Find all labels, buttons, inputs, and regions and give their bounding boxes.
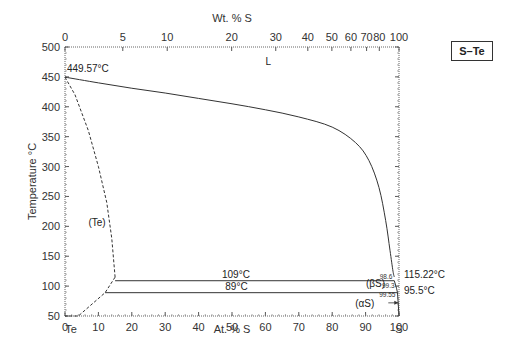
top-axis-title: Wt. % S bbox=[212, 12, 252, 24]
annotation-label: 109°C bbox=[222, 269, 250, 280]
top-x-tick-label: 100 bbox=[390, 31, 408, 43]
-te-solvus-line bbox=[65, 77, 115, 277]
x-axis-title: At. % S bbox=[214, 323, 251, 335]
annotation-label: 115.22°C bbox=[404, 269, 445, 280]
y-tick-label: 150 bbox=[42, 250, 60, 262]
phase-diagram: 5010015020025030035040045050001020304050… bbox=[0, 0, 515, 339]
annotation-label: 449.57°C bbox=[67, 63, 109, 74]
top-x-tick-label: 10 bbox=[161, 31, 173, 43]
x-tick-label: 90 bbox=[359, 321, 371, 333]
-te-lower-boundary-line bbox=[65, 277, 115, 316]
system-label: S–Te bbox=[451, 41, 493, 61]
x-tick-label: 40 bbox=[192, 321, 204, 333]
top-x-tick-label: 0 bbox=[62, 31, 68, 43]
top-x-tick-label: 30 bbox=[270, 31, 282, 43]
x-tick-label: 80 bbox=[326, 321, 338, 333]
right-element-label: S bbox=[395, 323, 402, 335]
top-x-tick-label: 60 bbox=[345, 31, 357, 43]
top-x-tick-label: 70 bbox=[360, 31, 372, 43]
annotation-label: (αS) bbox=[355, 298, 374, 309]
y-tick-label: 450 bbox=[42, 71, 60, 83]
top-x-tick-label: 5 bbox=[120, 31, 126, 43]
y-tick-label: 500 bbox=[42, 41, 60, 53]
annotation-label: L bbox=[265, 56, 271, 67]
top-x-tick-label: 40 bbox=[302, 31, 314, 43]
annotations: 449.57°CL(Te)109°C89°C98.699.399.55(βS)(… bbox=[67, 56, 445, 309]
y-tick-label: 200 bbox=[42, 220, 60, 232]
x-tick-label: 20 bbox=[126, 321, 138, 333]
top-x-tick-label: 50 bbox=[326, 31, 338, 43]
axes: 5010015020025030035040045050001020304050… bbox=[26, 12, 408, 335]
top-x-tick-label: 20 bbox=[226, 31, 238, 43]
annotation-label: (Te) bbox=[88, 217, 105, 228]
annotation-label: (βS) bbox=[366, 278, 385, 289]
y-tick-label: 50 bbox=[48, 310, 60, 322]
x-tick-label: 10 bbox=[92, 321, 104, 333]
left-element-label: Te bbox=[65, 323, 77, 335]
y-tick-label: 350 bbox=[42, 131, 60, 143]
y-tick-label: 100 bbox=[42, 280, 60, 292]
x-tick-label: 60 bbox=[259, 321, 271, 333]
x-tick-label: 70 bbox=[293, 321, 305, 333]
liquidus-line bbox=[65, 77, 394, 277]
y-tick-label: 250 bbox=[42, 190, 60, 202]
y-axis-title: Temperature °C bbox=[26, 143, 38, 220]
y-tick-label: 400 bbox=[42, 101, 60, 113]
y-tick-label: 300 bbox=[42, 161, 60, 173]
x-tick-label: 30 bbox=[159, 321, 171, 333]
top-x-tick-label: 80 bbox=[373, 31, 385, 43]
annotation-label: 95.5°C bbox=[404, 285, 435, 296]
annotation-label: 99.55 bbox=[379, 291, 396, 298]
annotation-label: 89°C bbox=[225, 281, 247, 292]
